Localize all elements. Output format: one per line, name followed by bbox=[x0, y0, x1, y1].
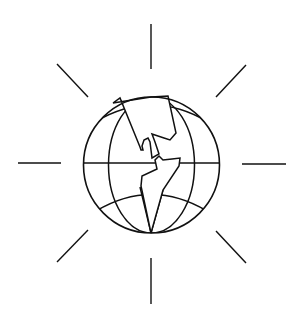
ray-top-right-icon bbox=[216, 65, 246, 97]
ray-top-left-icon bbox=[57, 64, 88, 97]
ray-bottom-left-icon bbox=[57, 230, 88, 262]
continents-americas bbox=[113, 96, 180, 233]
globe-icon bbox=[0, 0, 303, 320]
globe-illustration bbox=[0, 0, 303, 320]
north-america-shape bbox=[113, 96, 176, 158]
sun-rays bbox=[18, 24, 286, 304]
ray-bottom-right-icon bbox=[216, 231, 246, 263]
south-america-shape bbox=[141, 156, 180, 233]
